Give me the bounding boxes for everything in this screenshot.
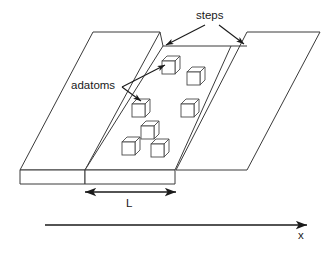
terrace-group	[20, 32, 320, 170]
adatom-2	[187, 67, 205, 85]
middle-step-riser	[85, 170, 175, 184]
adatom-7	[151, 139, 169, 157]
steps-leader-right-arrow	[219, 25, 244, 44]
adatom-6	[122, 137, 140, 155]
diagram-svg	[0, 0, 331, 254]
upper-step-edge	[160, 32, 163, 46]
adatom-5-front-face	[141, 126, 154, 139]
adatom-6-front-face	[122, 142, 135, 155]
adatom-4	[181, 99, 199, 117]
adatom-1-front-face	[162, 61, 175, 74]
left-step-riser	[20, 170, 85, 184]
adatom-5	[141, 121, 159, 139]
adatom-3-front-face	[132, 104, 145, 117]
steps-leader-left-arrow	[166, 25, 205, 45]
adatoms-label: adatoms	[71, 80, 115, 92]
x-axis-label: x	[298, 230, 304, 242]
adatom-4-front-face	[181, 104, 194, 117]
step-edge-group	[160, 32, 247, 46]
adatom-2-front-face	[187, 72, 200, 85]
adatom-3	[132, 99, 150, 117]
adatom-7-front-face	[151, 144, 164, 157]
terrace-width-label: L	[126, 198, 132, 210]
step-riser-group	[20, 170, 175, 184]
figure-canvas: steps adatoms L x	[0, 0, 331, 254]
steps-label: steps	[196, 10, 224, 22]
